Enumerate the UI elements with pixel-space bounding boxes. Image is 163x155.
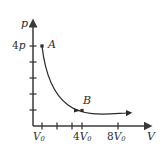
x-tick-label-4v0: 4V0 bbox=[73, 131, 92, 143]
x-axis bbox=[33, 123, 145, 130]
point-marker-B bbox=[80, 109, 83, 112]
y-tick-label-4p-symbol: p bbox=[19, 39, 26, 51]
x-tick-label-v0-subscript: 0 bbox=[41, 135, 45, 143]
x-tick-label-4v0-number: 4 bbox=[73, 130, 80, 142]
point-marker-A bbox=[40, 44, 43, 47]
x-tick-label-4v0-subscript: 0 bbox=[87, 135, 91, 143]
x-tick-label-8v0: 8V0 bbox=[107, 131, 126, 143]
pv-diagram-figure: p V 4p V0 4V0 8V0 A B bbox=[0, 0, 163, 155]
x-tick-label-v0: V0 bbox=[33, 131, 45, 143]
x-tick-label-8v0-subscript: 0 bbox=[121, 135, 125, 143]
point-label-a: A bbox=[48, 39, 56, 50]
x-tick-label-v0-symbol: V bbox=[33, 130, 41, 142]
y-tick-label-4p: 4p bbox=[12, 40, 25, 51]
y-axis bbox=[30, 26, 37, 126]
y-tick-label-4p-number: 4 bbox=[12, 39, 19, 51]
point-label-b: B bbox=[83, 95, 91, 106]
y-axis-label: p bbox=[21, 18, 28, 29]
curve-direction-arrow bbox=[74, 108, 81, 112]
x-axis-label: V bbox=[147, 131, 155, 142]
x-tick-label-8v0-number: 8 bbox=[107, 130, 114, 142]
